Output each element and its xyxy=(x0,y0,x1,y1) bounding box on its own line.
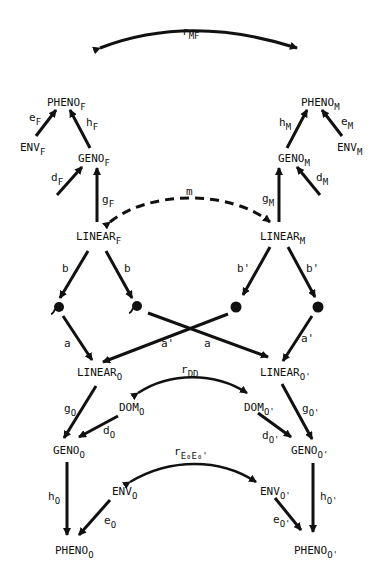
gamete-sperm-1 xyxy=(54,302,64,312)
label-b1: b xyxy=(62,263,69,274)
label-a3: a xyxy=(204,338,211,349)
label-a4: a' xyxy=(301,333,314,344)
node-linear-o: LINEARO xyxy=(77,367,122,383)
label-g-m: gM xyxy=(262,193,274,209)
label-h-o: hO xyxy=(48,491,60,507)
label-r-mf: rMF xyxy=(182,26,199,42)
node-pheno-m: PHENOM xyxy=(301,97,340,113)
edge-a3 xyxy=(148,313,268,357)
label-d-f: dF xyxy=(51,172,63,188)
label-g-o2: gO' xyxy=(302,403,319,419)
label-r-ee: rE₀E₀' xyxy=(174,446,208,462)
label-h-o2: hO' xyxy=(320,491,337,507)
label-b3: b' xyxy=(237,263,250,274)
node-pheno-o: PHENOO xyxy=(55,545,94,561)
label-a2: a' xyxy=(161,338,174,349)
node-env-o: ENVO xyxy=(112,486,137,502)
label-e-o2: eO' xyxy=(273,514,290,530)
node-dom-o: DOMO xyxy=(119,402,144,418)
node-dom-o2: DOMO' xyxy=(244,402,275,418)
node-geno-o: GENOO xyxy=(53,445,85,461)
node-pheno-o2: PHENOO' xyxy=(294,545,338,561)
gamete-sperm-2 xyxy=(132,301,142,311)
node-pheno-f: PHENOF xyxy=(47,97,86,113)
node-geno-o2: GENOO' xyxy=(291,445,328,461)
node-linear-f: LINEARF xyxy=(76,231,121,247)
edge-m xyxy=(110,198,270,222)
label-h-m: hM xyxy=(279,117,291,133)
label-d-m: dM xyxy=(316,172,328,188)
label-b2: b xyxy=(124,263,131,274)
gamete-egg-2 xyxy=(313,302,324,313)
label-e-m: eM xyxy=(341,116,353,132)
label-h-f: hF xyxy=(86,117,98,133)
node-env-o2: ENVO' xyxy=(260,486,291,502)
label-m: m xyxy=(186,186,193,197)
label-d-o: dO xyxy=(103,425,115,441)
node-linear-m: LINEARM xyxy=(260,231,305,247)
label-d-o2: dO' xyxy=(262,430,279,446)
label-b4: b' xyxy=(306,263,319,274)
label-g-f: gF xyxy=(102,194,114,210)
node-linear-o2: LINEARO' xyxy=(260,367,311,383)
label-e-f: eF xyxy=(29,112,41,128)
gamete-egg-1 xyxy=(231,302,242,313)
edge-r-ee xyxy=(130,464,256,482)
node-env-f: ENVF xyxy=(20,142,45,158)
label-r-dd: rDD xyxy=(181,364,198,380)
label-a1: a xyxy=(64,338,71,349)
edge-e-m xyxy=(322,110,342,136)
label-e-o: eO xyxy=(104,515,116,531)
label-g-o: gO xyxy=(64,403,76,419)
node-geno-m: GENOM xyxy=(278,153,310,169)
node-env-m: ENVM xyxy=(337,142,362,158)
node-geno-f: GENOF xyxy=(78,153,110,169)
